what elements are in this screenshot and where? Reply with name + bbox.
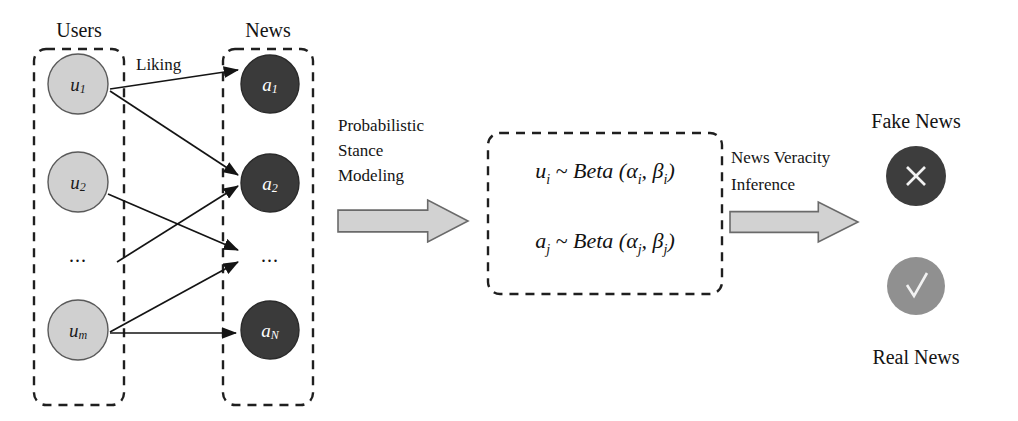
stage-label-line: Inference [731,175,795,194]
liking-edges [108,70,238,333]
diagram-canvas: Users u1 u2 um ... News a1 [0,0,1018,421]
fake-news-label: Fake News [871,110,961,132]
news-node-a1: a1 [241,55,299,113]
news-group-label: News [245,19,291,41]
stage-label-line: Probabilistic [338,116,424,135]
user-beta-formula: ui ~ Beta (αi, βi) [535,158,675,187]
stage2-block-arrow-icon [730,202,858,242]
probabilistic-stance-modeling-stage: ProbabilisticStanceModeling [338,116,468,242]
news-group: News a1 a2 aN ... [223,19,313,405]
users-ellipsis: ... [69,244,87,266]
news-beta-formula: aj ~ Beta (αj, βj) [535,228,675,257]
fake-news-detection-diagram: Users u1 u2 um ... News a1 [0,0,1018,421]
fake-news-outcome: Fake News [871,110,961,206]
news-node-a2: a2 [241,154,299,212]
news-ellipsis: ... [261,244,279,266]
liking-edge [108,194,238,250]
stage2-label: News VeracityInference [731,148,831,194]
real-news-outcome: Real News [872,257,959,368]
user-node-um: um [48,300,108,360]
liking-edge [110,262,238,332]
stage-label-line: Stance [338,141,383,160]
real-news-circle [887,257,945,315]
liking-edge-label: Liking [136,55,182,74]
liking-edge [110,91,238,175]
users-group-label: Users [56,19,102,41]
news-node-aN: aN [241,301,299,359]
news-veracity-inference-stage: News VeracityInference [730,148,858,242]
stage1-label: ProbabilisticStanceModeling [338,116,424,185]
users-group: Users u1 u2 um ... [34,19,124,405]
stage1-block-arrow-icon [338,200,468,242]
stage-label-line: News Veracity [731,148,831,167]
liking-edge [117,186,238,262]
real-news-label: Real News [872,346,959,368]
user-node-u2: u2 [48,152,108,212]
user-node-u1: u1 [48,54,108,114]
stance-model-box: ui ~ Beta (αi, βi) aj ~ Beta (αj, βj) [488,133,722,294]
stage-label-line: Modeling [338,166,405,185]
